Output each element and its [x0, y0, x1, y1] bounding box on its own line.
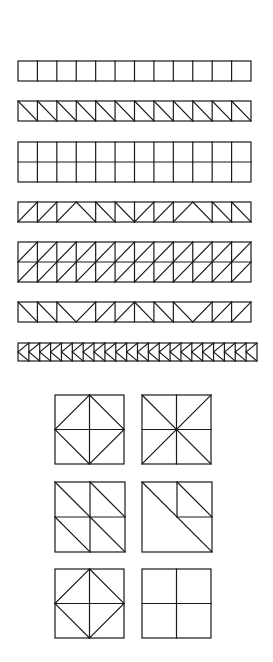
chevron-upper: [148, 343, 159, 352]
backslash-diagonal: [154, 302, 173, 322]
chevron-upper: [72, 343, 83, 352]
backslash-diagonal: [96, 202, 115, 222]
backslash-diagonal: [18, 302, 37, 322]
chevron-lower: [214, 352, 225, 361]
forward-diagonal: [135, 202, 154, 222]
forward-diagonal: [232, 262, 251, 282]
forward-diagonal: [96, 302, 115, 322]
forward-diagonal: [57, 242, 76, 262]
forward-diagonal: [212, 302, 231, 322]
chevron-lower: [235, 352, 246, 361]
backslash-diagonal: [232, 202, 251, 222]
diamond-edge: [55, 569, 90, 604]
strips: [18, 61, 257, 361]
forward-diagonal: [212, 262, 231, 282]
strip-double-forward: [18, 242, 251, 282]
block-cross-diamond-1: [55, 395, 124, 464]
forward-diagonal: [76, 262, 95, 282]
chevron-lower: [18, 352, 29, 361]
chevron-upper: [192, 343, 203, 352]
chevron-lower: [224, 352, 235, 361]
diamond-edge: [55, 395, 90, 430]
forward-diagonal: [154, 242, 173, 262]
diamond-edge: [90, 569, 125, 604]
backslash-diagonal: [37, 302, 56, 322]
forward-diagonal: [37, 242, 56, 262]
forward-diagonal: [232, 302, 251, 322]
strip-double-plain: [18, 142, 251, 182]
backslash-diagonal: [193, 101, 212, 121]
peak-left-diagonal: [57, 202, 76, 222]
peak-right-diagonal: [193, 202, 212, 222]
forward-diagonal: [37, 262, 56, 282]
backslash-diagonal: [37, 101, 56, 121]
chevron-upper: [159, 343, 170, 352]
forward-diagonal: [173, 242, 192, 262]
peak-right-diagonal: [76, 202, 95, 222]
chevron-upper: [51, 343, 62, 352]
chevron-lower: [29, 352, 40, 361]
diamond-edge: [90, 604, 125, 639]
valley-left-diagonal: [57, 302, 76, 322]
blocks: [55, 395, 212, 638]
diamond-edge: [90, 395, 125, 430]
quadrant-diagonal: [90, 482, 125, 517]
diamond-edge: [55, 604, 90, 639]
chevron-lower: [127, 352, 138, 361]
backslash-diagonal: [212, 101, 231, 121]
strip-valleys: [18, 302, 251, 322]
backslash-diagonal: [57, 101, 76, 121]
corner-diagonal: [177, 482, 212, 517]
chevron-lower: [61, 352, 72, 361]
forward-diagonal: [135, 242, 154, 262]
backslash-diagonal: [154, 101, 173, 121]
forward-diagonal: [115, 302, 134, 322]
chevron-lower: [181, 352, 192, 361]
backslash-diagonal: [135, 302, 154, 322]
chevron-lower: [40, 352, 51, 361]
chevron-lower: [51, 352, 62, 361]
forward-diagonal: [18, 242, 37, 262]
block-diagonal-with-corner: [142, 482, 212, 552]
chevron-upper: [224, 343, 235, 352]
forward-diagonal: [18, 202, 37, 222]
chevron-upper: [181, 343, 192, 352]
chevron-lower: [246, 352, 257, 361]
forward-diagonal: [193, 262, 212, 282]
chevron-lower: [116, 352, 127, 361]
backslash-diagonal: [76, 101, 95, 121]
chevron-upper: [138, 343, 149, 352]
chevron-upper: [94, 343, 105, 352]
strip-chevrons: [18, 343, 257, 361]
diamond-edge: [55, 430, 90, 465]
forward-diagonal: [76, 242, 95, 262]
strip-plain: [18, 61, 251, 81]
chevron-upper: [246, 343, 257, 352]
forward-diagonal: [115, 262, 134, 282]
chevron-upper: [214, 343, 225, 352]
valley-left-diagonal: [173, 302, 192, 322]
quadrant-diagonal: [55, 517, 90, 552]
forward-diagonal: [37, 202, 56, 222]
quilt-pattern-diagram: [0, 0, 273, 662]
forward-diagonal: [96, 262, 115, 282]
chevron-lower: [72, 352, 83, 361]
forward-diagonal: [115, 242, 134, 262]
chevron-upper: [18, 343, 29, 352]
backslash-diagonal: [135, 101, 154, 121]
chevron-upper: [116, 343, 127, 352]
chevron-upper: [29, 343, 40, 352]
chevron-lower: [83, 352, 94, 361]
chevron-upper: [127, 343, 138, 352]
chevron-lower: [192, 352, 203, 361]
forward-diagonal: [135, 262, 154, 282]
diamond-edge: [90, 430, 125, 465]
forward-diagonal: [57, 262, 76, 282]
chevron-upper: [61, 343, 72, 352]
block-cross-diamond-2: [55, 569, 124, 638]
chevron-lower: [148, 352, 159, 361]
chevron-lower: [203, 352, 214, 361]
forward-diagonal: [193, 242, 212, 262]
forward-diagonal: [173, 262, 192, 282]
forward-diagonal: [212, 242, 231, 262]
